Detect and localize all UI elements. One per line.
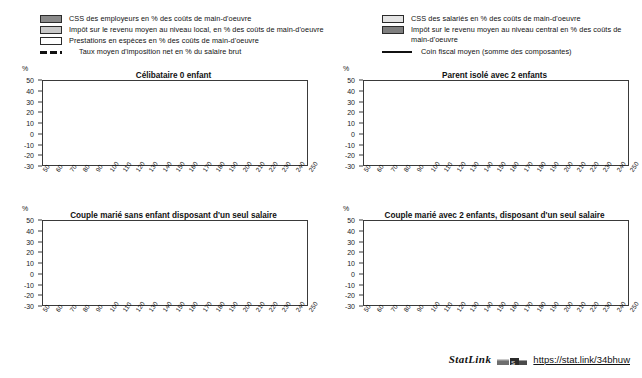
y-axis-tick-label: 10 xyxy=(347,120,355,127)
y-axis-tick-label: -30 xyxy=(24,163,34,170)
chart-grid: % Célibataire 0 enfant 50403020100-10-20… xyxy=(0,64,642,344)
legend-item-label: Coin fiscal moyen (somme des composantes… xyxy=(421,47,572,57)
legend-item-label: Impôt sur le revenu moyen au niveau cent… xyxy=(411,25,640,45)
plot-frame xyxy=(363,80,629,166)
chart-panel-parent-isole-2-enfants: % Parent isolé avec 2 enfants 5040302010… xyxy=(321,64,642,204)
legend-item-label: Taux moyen d'imposition net en % du sala… xyxy=(69,47,241,57)
legend-item-employer-scc: CSS des employeurs en % des coûts de mai… xyxy=(40,14,360,24)
plot-area xyxy=(363,80,629,166)
legend-item-employee-scc: CSS des salariés en % des coûts de main-… xyxy=(382,14,640,24)
y-axis-tick-label: 40 xyxy=(347,87,355,94)
statlink-label: StatLink xyxy=(449,353,492,365)
legend-item-net-average-tax-rate: Taux moyen d'imposition net en % du sala… xyxy=(40,47,360,57)
y-axis: 50403020100-10-20-30 xyxy=(0,80,42,166)
y-axis-tick-label: 20 xyxy=(26,109,34,116)
legend-item-label: Impôt sur le revenu moyen au niveau loca… xyxy=(69,25,324,35)
plot-area xyxy=(363,220,629,306)
chart-legend: CSS des employeurs en % des coûts de mai… xyxy=(0,14,642,64)
dark-gray-swatch xyxy=(40,15,62,23)
y-axis-unit: % xyxy=(343,65,349,72)
y-axis-tick-label: 20 xyxy=(26,249,34,256)
legend-item-label: CSS des employeurs en % des coûts de mai… xyxy=(69,14,251,24)
y-axis-tick-label: 30 xyxy=(26,98,34,105)
chart-panel-celibataire-0-enfant: % Célibataire 0 enfant 50403020100-10-20… xyxy=(0,64,321,204)
y-axis-tick-label: 10 xyxy=(26,120,34,127)
y-axis: 50403020100-10-20-30 xyxy=(321,80,363,166)
x-axis-tick-label: 250 xyxy=(628,300,640,313)
y-axis-tick-label: -10 xyxy=(345,281,355,288)
y-axis-tick-label: -20 xyxy=(345,292,355,299)
svg-text:S: S xyxy=(511,359,515,364)
y-axis-tick-label: 20 xyxy=(347,109,355,116)
y-axis-tick-label: -10 xyxy=(24,281,34,288)
y-axis-tick-label: 10 xyxy=(26,260,34,267)
chart-title: Couple marié sans enfant disposant d'un … xyxy=(30,211,317,220)
white-swatch xyxy=(40,37,62,45)
y-axis: 50403020100-10-20-30 xyxy=(321,220,363,306)
y-axis-tick-label: -10 xyxy=(24,141,34,148)
y-axis-tick-label: 40 xyxy=(347,227,355,234)
very-light-gray-swatch xyxy=(382,15,404,23)
legend-column-right: CSS des salariés en % des coûts de main-… xyxy=(382,14,640,58)
legend-column-left: CSS des employeurs en % des coûts de mai… xyxy=(40,14,360,58)
y-axis-tick-label: 40 xyxy=(26,227,34,234)
statlink-logo-icon: S xyxy=(497,354,527,365)
legend-item-cash-benefits: Prestations en espèces en % des coûts de… xyxy=(40,36,360,46)
y-axis-tick-label: 30 xyxy=(26,238,34,245)
y-axis-tick-label: -20 xyxy=(345,152,355,159)
chart-title: Parent isolé avec 2 enfants xyxy=(351,71,638,80)
x-axis: 5060708090100110120130140150160170180190… xyxy=(363,307,629,339)
x-axis-tick-label: 250 xyxy=(628,160,640,173)
plot-frame xyxy=(363,220,629,306)
x-axis-tick-label: 250 xyxy=(307,160,319,173)
y-axis-unit: % xyxy=(343,205,349,212)
y-axis-tick-label: -10 xyxy=(345,141,355,148)
y-axis-tick-label: -20 xyxy=(24,152,34,159)
chart-panel-couple-marie-sans-enfant: % Couple marié sans enfant disposant d'u… xyxy=(0,204,321,344)
plot-frame xyxy=(42,220,308,306)
y-axis-tick-label: 10 xyxy=(347,260,355,267)
y-axis-tick-label: 50 xyxy=(26,77,34,84)
legend-item-label: Prestations en espèces en % des coûts de… xyxy=(69,36,259,46)
y-axis-tick-label: -30 xyxy=(345,303,355,310)
dark-gray-swatch xyxy=(382,26,404,34)
x-axis-tick-label: 250 xyxy=(307,300,319,313)
legend-item-local-income-tax: Impôt sur le revenu moyen au niveau loca… xyxy=(40,25,360,35)
plot-frame xyxy=(42,80,308,166)
y-axis-tick-label: 0 xyxy=(30,270,34,277)
chart-panel-couple-marie-2-enfants: % Couple marié avec 2 enfants, disposant… xyxy=(321,204,642,344)
mid-gray-swatch xyxy=(40,26,62,34)
y-axis-tick-label: 30 xyxy=(347,238,355,245)
dashed-line-key-icon xyxy=(40,48,62,56)
solid-line-key-icon xyxy=(382,48,412,56)
y-axis-tick-label: 40 xyxy=(26,87,34,94)
statlink-logo-svg: S xyxy=(497,357,527,365)
y-axis-tick-label: -30 xyxy=(24,303,34,310)
statlink-url[interactable]: https://stat.link/34bhuw xyxy=(533,354,630,365)
y-axis-tick-label: 0 xyxy=(351,130,355,137)
y-axis-tick-label: 20 xyxy=(347,249,355,256)
y-axis: 50403020100-10-20-30 xyxy=(0,220,42,306)
plot-area xyxy=(42,80,308,166)
y-axis-tick-label: 30 xyxy=(347,98,355,105)
y-axis-tick-label: 0 xyxy=(351,270,355,277)
y-axis-tick-label: 50 xyxy=(347,77,355,84)
legend-item-central-income-tax: Impôt sur le revenu moyen au niveau cent… xyxy=(382,25,640,45)
y-axis-unit: % xyxy=(22,205,28,212)
legend-item-label: CSS des salariés en % des coûts de main-… xyxy=(411,14,581,24)
x-axis: 5060708090100110120130140150160170180190… xyxy=(42,167,308,199)
y-axis-tick-label: -20 xyxy=(24,292,34,299)
y-axis-tick-label: 50 xyxy=(26,217,34,224)
y-axis-tick-label: -30 xyxy=(345,163,355,170)
statlink: StatLink S https://stat.link/34bhuw xyxy=(449,353,630,365)
x-axis: 5060708090100110120130140150160170180190… xyxy=(363,167,629,199)
legend-item-tax-wedge: Coin fiscal moyen (somme des composantes… xyxy=(382,47,640,57)
chart-title: Célibataire 0 enfant xyxy=(30,71,317,80)
chart-title: Couple marié avec 2 enfants, disposant d… xyxy=(351,211,638,220)
y-axis-unit: % xyxy=(22,65,28,72)
plot-area xyxy=(42,220,308,306)
y-axis-tick-label: 0 xyxy=(30,130,34,137)
x-axis: 5060708090100110120130140150160170180190… xyxy=(42,307,308,339)
y-axis-tick-label: 50 xyxy=(347,217,355,224)
